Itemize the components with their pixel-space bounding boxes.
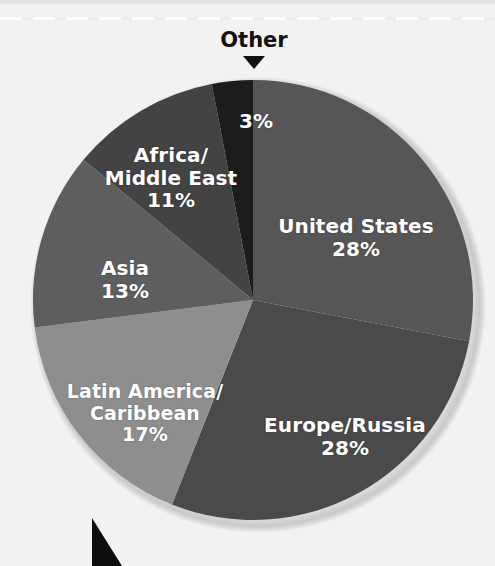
pie-chart — [0, 0, 495, 566]
chart-canvas: United States 28% Europe/Russia 28% Lati… — [0, 0, 495, 566]
triangle-corner-icon — [92, 518, 122, 566]
pie-svg — [0, 0, 495, 566]
pie-slice-united-states[interactable] — [253, 80, 473, 341]
pie-slice-group — [33, 80, 473, 520]
